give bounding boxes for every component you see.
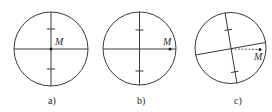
caption-a: a) bbox=[48, 95, 56, 107]
point-m-a bbox=[50, 48, 53, 51]
point-m-b bbox=[169, 48, 172, 51]
panel-b: M b) bbox=[103, 12, 176, 107]
tick-bottom-c bbox=[231, 71, 239, 72]
panel-c: M c) bbox=[195, 13, 266, 108]
point-label-a: M bbox=[54, 36, 64, 47]
caption-b: b) bbox=[137, 95, 145, 107]
figure: M a) M b) M c) bbox=[0, 0, 272, 112]
point-label-b: M bbox=[162, 36, 172, 47]
dashed-link-c bbox=[231, 49, 260, 50]
panel-a: M a) bbox=[14, 12, 88, 107]
caption-c: c) bbox=[234, 95, 242, 107]
tick-top-c bbox=[225, 29, 233, 30]
point-label-c: M bbox=[253, 51, 263, 62]
